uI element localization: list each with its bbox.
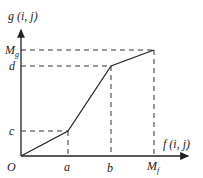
tick-mg: Mg [4, 43, 19, 59]
guide-lines [21, 50, 154, 156]
tick-d: d [9, 59, 16, 73]
y-axis-label: g (i, j) [8, 9, 38, 23]
origin-label: O [7, 160, 16, 174]
tick-mf: Mf [146, 159, 161, 175]
piecewise-linear-chart: g (i, j) f (i, j) O a b Mf c d Mg [0, 0, 203, 178]
tick-b: b [107, 161, 113, 175]
tick-a: a [64, 160, 70, 174]
x-axis-label: f (i, j) [163, 137, 190, 151]
tick-c: c [9, 124, 15, 138]
